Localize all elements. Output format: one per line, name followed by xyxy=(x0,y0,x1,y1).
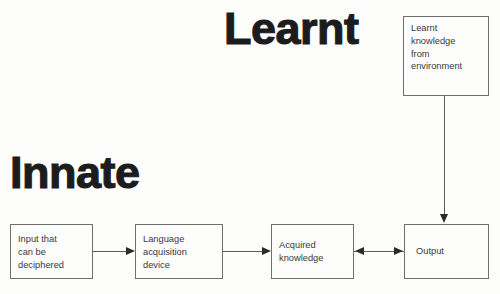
edge-lad-to-acquired-arrowhead xyxy=(262,247,271,255)
edge-input-to-lad-line xyxy=(93,251,128,252)
node-input: Input that can be deciphered xyxy=(10,224,93,279)
edge-learnt-knowledge-to-output-arrowhead xyxy=(440,214,448,223)
flowchart-diagram: Learnt Innate Learnt knowledge from envi… xyxy=(0,0,500,294)
edge-acquired-output-arrowhead-right xyxy=(394,247,403,255)
edge-lad-to-acquired-line xyxy=(223,251,264,252)
edge-acquired-output-arrowhead-left xyxy=(355,247,364,255)
heading-innate: Innate xyxy=(10,150,140,195)
node-acquired-knowledge: Acquired knowledge xyxy=(271,224,354,279)
node-output: Output xyxy=(404,224,489,279)
edge-input-to-lad-arrowhead xyxy=(126,247,135,255)
edge-learnt-knowledge-to-output-line xyxy=(444,96,445,215)
node-learnt-knowledge: Learnt knowledge from environment xyxy=(403,16,489,96)
node-language-acquisition-device: Language acquisition device xyxy=(135,224,223,279)
heading-learnt: Learnt xyxy=(224,6,359,51)
